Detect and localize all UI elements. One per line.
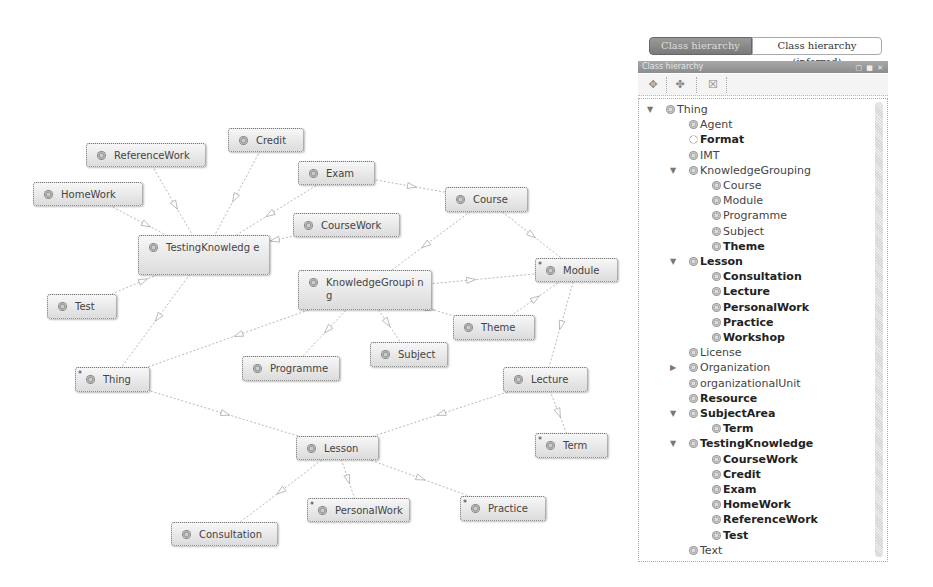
tree-item-label: Lecture	[723, 284, 770, 299]
graph-node-thing[interactable]: *Thing	[75, 367, 150, 392]
class-icon	[712, 181, 721, 190]
tab-class-hierarchy[interactable]: Class hierarchy	[649, 37, 752, 55]
tree-item-label: Thing	[677, 102, 708, 117]
graph-node-practice[interactable]: *Practice	[460, 496, 546, 521]
expand-marker-icon: *	[538, 259, 542, 272]
graph-node-test[interactable]: Test	[47, 294, 117, 319]
graph-node-exam[interactable]: Exam	[298, 161, 375, 185]
class-icon	[304, 221, 313, 230]
tab-class-hierarchy-inferred[interactable]: Class hierarchy (inferred)	[752, 37, 882, 55]
class-icon	[44, 190, 53, 199]
class-icon	[309, 169, 318, 178]
graph-node-programme[interactable]: Programme	[242, 356, 340, 381]
class-icon	[689, 135, 698, 144]
graph-node-referencework[interactable]: ReferenceWork	[86, 143, 206, 167]
class-icon	[689, 257, 698, 266]
tree-item-label: Resource	[700, 391, 757, 406]
arrowhead-icon	[277, 486, 286, 494]
tree-item-label: Term	[723, 421, 753, 436]
view-title: Class hierarchy	[642, 62, 703, 71]
tree-item-label: Workshop	[723, 330, 785, 345]
class-icon	[712, 531, 721, 540]
class-icon	[546, 441, 555, 450]
tree-item-label: SubjectArea	[700, 406, 775, 421]
graph-node-term[interactable]: *Term	[535, 433, 608, 458]
class-icon	[471, 504, 480, 513]
tree-item-label: CourseWork	[723, 452, 798, 467]
class-icon	[97, 151, 106, 160]
arrowhead-icon	[422, 240, 431, 248]
graph-node-label: Subject	[398, 348, 435, 361]
graph-node-label: Lesson	[324, 442, 358, 455]
graph-node-theme[interactable]: Theme	[453, 315, 535, 340]
collapse-arrow-icon[interactable]: ▼	[668, 163, 678, 178]
class-icon	[712, 303, 721, 312]
class-icon	[712, 272, 721, 281]
graph-node-label: CourseWork	[321, 219, 381, 232]
graph-node-consultation[interactable]: Consultation	[171, 522, 278, 546]
graph-node-homework[interactable]: HomeWork	[33, 182, 143, 206]
collapse-arrow-icon[interactable]: ▼	[668, 254, 678, 269]
graph-node-lecture[interactable]: Lecture	[503, 367, 588, 392]
class-tree[interactable]: ▼ThingAgentFormatIMT▼KnowledgeGroupingCo…	[638, 98, 888, 562]
graph-node-subject[interactable]: Subject	[370, 342, 448, 367]
graph-node-label: Test	[75, 300, 95, 313]
graph-node-testingknowledge[interactable]: TestingKnowledg e	[138, 235, 270, 275]
tree-item-label: TestingKnowledge	[700, 436, 813, 451]
tree-item-label: License	[700, 345, 741, 360]
graph-node-coursework[interactable]: CourseWork	[293, 213, 400, 237]
collapse-arrow-icon[interactable]: ▼	[668, 436, 678, 451]
arrowhead-icon	[138, 279, 147, 285]
graph-node-label: Thing	[103, 373, 131, 386]
arrowhead-icon	[344, 474, 350, 483]
tree-item-label: Practice	[723, 315, 773, 330]
arrowhead-icon	[155, 312, 163, 321]
class-icon	[689, 394, 698, 403]
collapse-arrow-icon[interactable]: ▼	[645, 102, 655, 117]
arrowhead-icon	[220, 410, 229, 416]
class-icon	[712, 333, 721, 342]
ontology-graph-view[interactable]: ReferenceWorkCreditExamHomeWorkCourseWor…	[0, 0, 630, 587]
class-icon	[86, 375, 95, 384]
graph-node-label: KnowledgeGroupi ng	[326, 276, 425, 302]
delete-class-icon[interactable]: ☒	[704, 77, 722, 93]
class-icon	[712, 196, 721, 205]
class-icon	[712, 455, 721, 464]
expand-arrow-icon[interactable]: ▶	[668, 360, 678, 375]
view-window-buttons[interactable]: □ ■ ✕	[855, 62, 884, 74]
graph-node-label: Consultation	[199, 528, 262, 541]
arrowhead-icon	[554, 408, 560, 417]
add-sibling-icon[interactable]: ✤	[671, 77, 689, 93]
toolbar-divider	[666, 77, 668, 93]
tree-item-label: Organization	[700, 360, 770, 375]
tree-item-label: Agent	[700, 117, 733, 132]
graph-node-knowledgegrouping[interactable]: KnowledgeGroupi ng	[298, 270, 432, 310]
graph-node-personalwork[interactable]: *PersonalWork	[307, 498, 410, 522]
arrowhead-icon	[415, 474, 424, 480]
class-icon	[712, 515, 721, 524]
graph-node-course[interactable]: Course	[445, 187, 528, 212]
tree-item-label: KnowledgeGrouping	[700, 163, 811, 178]
add-subclass-icon[interactable]: ✥	[644, 77, 662, 93]
class-icon	[689, 546, 698, 555]
hierarchy-toolbar: ✥ ✤ ☒	[638, 74, 888, 96]
graph-node-label: Practice	[488, 502, 528, 515]
view-header: Class hierarchy □ ■ ✕	[638, 61, 888, 73]
graph-node-label: Module	[563, 264, 599, 277]
class-icon	[689, 409, 698, 418]
class-icon	[712, 242, 721, 251]
class-icon	[712, 227, 721, 236]
graph-node-lesson[interactable]: Lesson	[296, 436, 379, 460]
tree-item-label: Programme	[723, 208, 787, 223]
arrowhead-icon	[437, 410, 446, 416]
collapse-arrow-icon[interactable]: ▼	[668, 406, 678, 421]
graph-node-credit[interactable]: Credit	[228, 128, 304, 152]
graph-node-label: Theme	[481, 321, 516, 334]
tree-item-label: Format	[700, 132, 744, 147]
graph-node-module[interactable]: *Module	[535, 258, 618, 282]
arrowhead-icon	[270, 236, 279, 242]
arrowhead-icon	[266, 209, 275, 216]
graph-node-label: Credit	[256, 134, 286, 147]
class-icon	[381, 350, 390, 359]
tree-scrollbar[interactable]	[875, 102, 883, 557]
